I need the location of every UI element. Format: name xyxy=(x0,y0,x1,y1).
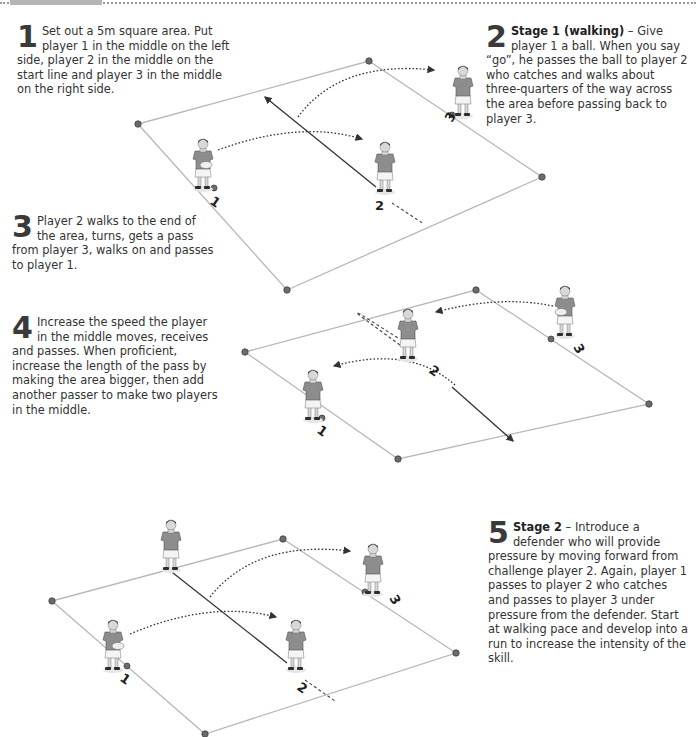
player-1-figure xyxy=(103,620,124,673)
cone-icon xyxy=(473,287,479,293)
diagram-2: 1 2 3 xyxy=(242,286,652,462)
player-label-1: 1 xyxy=(207,193,223,210)
player-label-2: 2 xyxy=(294,679,310,696)
cone-icon xyxy=(548,336,554,342)
cone-icon xyxy=(242,349,248,355)
player-label-3: 3 xyxy=(386,592,404,607)
pass-arrow xyxy=(218,132,362,150)
pass-arrow xyxy=(130,611,276,634)
drill-diagrams: 1 2 3 1 2 3 xyxy=(0,0,696,737)
cone-icon xyxy=(280,536,286,542)
cone-icon xyxy=(646,401,652,407)
pass-arrow xyxy=(210,549,350,597)
cone-icon xyxy=(49,598,55,604)
cone-icon xyxy=(395,456,401,462)
player-3-figure xyxy=(555,286,575,339)
pass-arrow xyxy=(436,302,553,312)
cone-icon xyxy=(284,287,290,293)
cone-icon xyxy=(124,663,130,669)
cone-icon xyxy=(453,650,459,656)
cone-icon xyxy=(366,58,372,64)
player-label-3: 3 xyxy=(442,109,460,124)
player-1-figure xyxy=(303,370,323,423)
turn-path xyxy=(357,313,400,345)
player-1-figure xyxy=(193,139,213,192)
diagram-1: 1 2 3 xyxy=(135,58,545,293)
player-label-1: 1 xyxy=(117,670,133,687)
player-2-figure xyxy=(398,309,418,362)
cone-icon xyxy=(539,174,545,180)
player-2-figure xyxy=(286,620,306,673)
run-arrow xyxy=(265,97,376,187)
defender-figure xyxy=(161,520,181,573)
pass-arrow xyxy=(298,69,434,117)
player-3-figure xyxy=(453,66,473,119)
diagram-3: 1 2 3 xyxy=(49,520,459,737)
player-label-1: 1 xyxy=(314,422,330,439)
cone-icon xyxy=(135,121,141,127)
pitch-boundary xyxy=(245,290,649,459)
start-line-dashes xyxy=(392,203,424,224)
player-label-2: 2 xyxy=(375,198,384,213)
cone-icon xyxy=(202,731,208,737)
run-arrow xyxy=(452,387,513,441)
player-label-2: 2 xyxy=(426,362,442,379)
player-2-figure xyxy=(375,142,395,195)
